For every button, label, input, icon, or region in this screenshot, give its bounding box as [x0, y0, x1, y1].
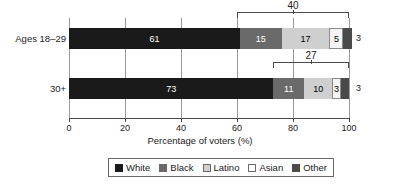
- x-axis-title: Percentage of voters (%): [0, 135, 400, 146]
- x-tick-80: [293, 118, 294, 122]
- x-tick-label-100: 100: [334, 123, 364, 134]
- bracket-30plus: [273, 62, 349, 68]
- segment-other-label-ages-18-29: 3: [356, 33, 361, 43]
- x-tick-40: [181, 118, 182, 122]
- legend-swatch-other-icon: [292, 164, 300, 172]
- plot-area: 40 61 15 17 5 3 27 73 11 10 3 3: [69, 18, 349, 118]
- segment-black-ages-18-29[interactable]: 15: [240, 28, 282, 49]
- x-tick-label-80: 80: [278, 123, 308, 134]
- bracket-ages-18-29: [237, 12, 349, 18]
- legend-label-other: Other: [303, 162, 327, 173]
- segment-asian-30plus[interactable]: 3: [332, 78, 340, 99]
- segment-other-ages-18-29[interactable]: [343, 28, 351, 49]
- segment-other-30plus[interactable]: [341, 78, 349, 99]
- legend: White Black Latino Asian Other: [108, 158, 334, 177]
- segment-white-30plus[interactable]: 73: [69, 78, 273, 99]
- legend-label-white: White: [126, 162, 150, 173]
- segment-asian-ages-18-29[interactable]: 5: [329, 28, 343, 49]
- legend-swatch-latino-icon: [203, 164, 211, 172]
- legend-item-white[interactable]: White: [115, 162, 150, 173]
- x-tick-60: [237, 118, 238, 122]
- legend-item-latino[interactable]: Latino: [203, 162, 240, 173]
- legend-label-black: Black: [170, 162, 193, 173]
- segment-latino-30plus[interactable]: 10: [304, 78, 332, 99]
- legend-item-other[interactable]: Other: [292, 162, 327, 173]
- x-tick-label-20: 20: [110, 123, 140, 134]
- x-tick-100: [349, 118, 350, 122]
- segment-white-ages-18-29[interactable]: 61: [69, 28, 240, 49]
- segment-latino-ages-18-29[interactable]: 17: [282, 28, 330, 49]
- stacked-bar-chart: 40 61 15 17 5 3 27 73 11 10 3 3 Ages 18–…: [0, 0, 400, 186]
- bracket-stem-30plus: [311, 60, 312, 64]
- bar-row-ages-18-29[interactable]: 61 15 17 5: [69, 28, 349, 49]
- segment-other-label-30plus: 3: [356, 83, 361, 93]
- legend-swatch-asian-icon: [248, 164, 256, 172]
- legend-label-latino: Latino: [214, 162, 240, 173]
- legend-item-asian[interactable]: Asian: [248, 162, 283, 173]
- legend-swatch-black-icon: [159, 164, 167, 172]
- x-tick-label-40: 40: [166, 123, 196, 134]
- x-tick-20: [125, 118, 126, 122]
- x-tick-label-0: 0: [54, 123, 84, 134]
- x-tick-label-60: 60: [222, 123, 252, 134]
- category-label-30plus: 30+: [50, 83, 66, 94]
- x-axis-line: [69, 118, 350, 119]
- legend-swatch-white-icon: [115, 164, 123, 172]
- legend-item-black[interactable]: Black: [159, 162, 193, 173]
- bar-row-30plus[interactable]: 73 11 10 3: [69, 78, 349, 99]
- segment-black-30plus[interactable]: 11: [273, 78, 304, 99]
- x-tick-0: [69, 118, 70, 122]
- category-label-ages-18-29: Ages 18–29: [15, 33, 66, 44]
- legend-label-asian: Asian: [259, 162, 283, 173]
- bracket-stem-ages-18-29: [293, 10, 294, 14]
